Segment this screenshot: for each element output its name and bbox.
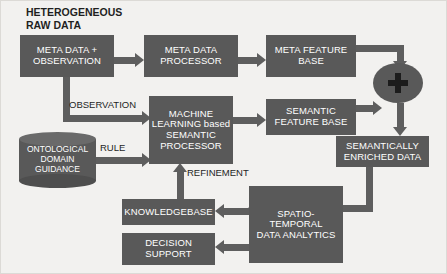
edge-label-rule: RULE (100, 142, 125, 153)
arrow-ml-to-semanticfeature-head (257, 113, 266, 127)
node-knowledgebase[interactable]: KNOWLEDGEBASE (122, 199, 215, 225)
node-knowledgebase-label: KNOWLEDGEBASE (122, 207, 215, 218)
diagram-title: HETEROGENEOUS RAW DATA (26, 6, 122, 32)
arrow-metadata-to-processor-head (135, 53, 144, 67)
arrow-spatio-to-knowledgebase-line (223, 208, 250, 215)
node-decision-support-label: DECISION SUPPORT (122, 238, 215, 259)
arrow-combiner-to-enriched-line (397, 103, 404, 129)
edge-label-observation: OBSERVATION (69, 99, 136, 110)
arrow-semanticfeature-to-combiner-head (373, 101, 382, 115)
arrow-observation-h (63, 115, 145, 122)
node-combiner[interactable] (373, 63, 423, 103)
arrow-spatio-to-knowledgebase-head (215, 204, 224, 218)
node-spatio-temporal-data-analytics-label: SPATIO-TEMPORAL DATA ANALYTICS (249, 209, 343, 241)
node-semantic-feature-base-label: SEMANTIC FEATURE BASE (266, 106, 356, 127)
node-ontological-domain-guidance[interactable]: ONTOLOGICAL DOMAIN GUIDANCE (19, 132, 96, 188)
node-meta-feature-base-label: META FEATURE BASE (266, 45, 356, 66)
node-semantic-feature-base[interactable]: SEMANTIC FEATURE BASE (266, 99, 356, 135)
node-decision-support[interactable]: DECISION SUPPORT (122, 233, 215, 265)
node-ontological-domain-guidance-label: ONTOLOGICAL DOMAIN GUIDANCE (19, 145, 96, 174)
diagram-canvas: HETEROGENEOUS RAW DATA META DATA + OBSER… (0, 0, 447, 274)
edge-label-refinement: REFINEMENT (187, 167, 249, 178)
arrow-processor-to-metafeature-head (257, 53, 266, 67)
arrow-ml-to-semanticfeature-line (233, 117, 259, 124)
node-meta-data-observation[interactable]: META DATA + OBSERVATION (20, 35, 114, 77)
arrow-spatio-to-decision-line (223, 244, 250, 251)
cylinder-bottom-ellipse (19, 174, 96, 188)
arrow-metadata-to-processor-line (114, 57, 137, 64)
node-machine-learning-processor[interactable]: MACHINE LEARNING based SEMANTIC PROCESSO… (149, 96, 233, 164)
arrow-spatio-to-decision-head (215, 240, 224, 254)
node-semantically-enriched-data-label: SEMANTICALLY ENRICHED DATA (336, 141, 429, 162)
arrow-combiner-to-enriched-head (393, 127, 407, 136)
arrow-refinement-line (177, 171, 184, 201)
arrow-refinement-head (173, 163, 187, 172)
arrow-rule-h (96, 157, 146, 164)
plus-icon (388, 73, 408, 93)
node-semantically-enriched-data[interactable]: SEMANTICALLY ENRICHED DATA (336, 136, 429, 167)
node-meta-feature-base[interactable]: META FEATURE BASE (266, 35, 356, 77)
node-meta-data-processor-label: META DATA PROCESSOR (144, 45, 238, 66)
node-machine-learning-processor-label: MACHINE LEARNING based SEMANTIC PROCESSO… (149, 109, 233, 152)
node-spatio-temporal-data-analytics[interactable]: SPATIO-TEMPORAL DATA ANALYTICS (249, 186, 343, 263)
arrow-processor-to-metafeature-line (238, 57, 259, 64)
node-meta-data-processor[interactable]: META DATA PROCESSOR (144, 35, 238, 77)
node-meta-data-observation-label: META DATA + OBSERVATION (20, 45, 114, 66)
